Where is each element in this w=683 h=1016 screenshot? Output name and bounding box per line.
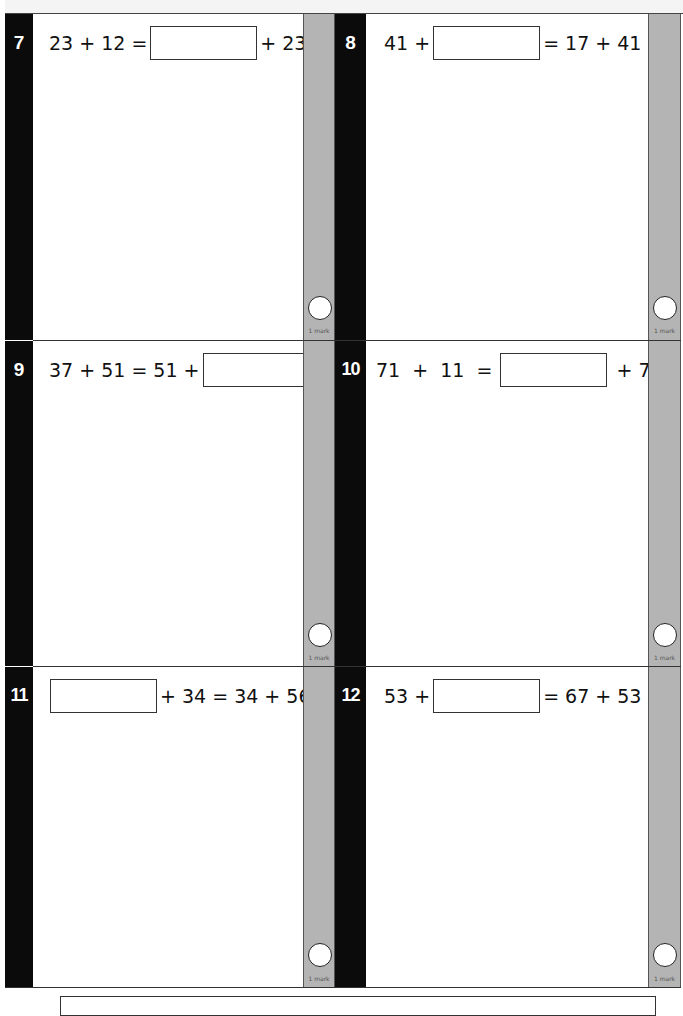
number-strip: 11 [5,667,33,987]
equation-left: 71 + 11 = [376,359,492,381]
question-grid: 7 23 + 12 = + 23 1 mark 8 41 + = 17 + 41 [5,14,681,988]
equation-left: 41 + [384,32,430,54]
question-number: 8 [335,32,366,54]
question-10: 10 71 + 11 = + 71 1 mark [335,341,681,666]
mark-circle[interactable] [308,623,332,647]
mark-strip: 1 mark [648,341,681,666]
answer-box[interactable] [150,26,257,60]
question-number: 9 [5,359,33,381]
working-area: 37 + 51 = 51 + [33,341,303,666]
number-strip: 10 [335,341,366,666]
page-top-edge [5,0,683,14]
equation: 23 + 12 = + 23 [49,26,306,60]
question-number: 7 [5,32,33,54]
answer-box[interactable] [433,26,540,60]
number-strip: 9 [5,341,33,666]
mark-label: 1 mark [304,327,334,334]
equation: 71 + 11 = + 71 [376,353,663,387]
number-strip: 8 [335,14,366,340]
answer-box[interactable] [433,679,540,713]
mark-circle[interactable] [653,296,677,320]
mark-label: 1 mark [649,327,680,334]
mark-circle[interactable] [308,943,332,967]
number-strip: 12 [335,667,366,987]
working-area: + 34 = 34 + 56 [33,667,303,987]
working-area: 41 + = 17 + 41 [366,14,648,340]
equation-right: = 17 + 41 [543,32,641,54]
question-9: 9 37 + 51 = 51 + 1 mark [5,341,335,666]
mark-circle[interactable] [653,943,677,967]
mark-label: 1 mark [304,654,334,661]
answer-box[interactable] [50,679,157,713]
mark-label: 1 mark [649,654,680,661]
mark-strip: 1 mark [303,341,335,666]
footer-box [60,996,656,1016]
equation: 53 + = 67 + 53 [384,679,641,713]
question-number: 11 [5,685,33,706]
question-7: 7 23 + 12 = + 23 1 mark [5,14,335,340]
question-11: 11 + 34 = 34 + 56 1 mark [5,667,335,987]
mark-label: 1 mark [649,975,680,982]
mark-circle[interactable] [653,623,677,647]
mark-strip: 1 mark [648,667,681,987]
question-12: 12 53 + = 67 + 53 1 mark [335,667,681,987]
equation: 37 + 51 = 51 + [49,353,313,387]
equation-right: + 34 = 34 + 56 [160,685,311,707]
equation: + 34 = 34 + 56 [50,679,311,713]
mark-circle[interactable] [308,296,332,320]
equation-left: 53 + [384,685,430,707]
number-strip: 7 [5,14,33,340]
equation-right: = 67 + 53 [543,685,641,707]
working-area: 23 + 12 = + 23 [33,14,303,340]
equation-right: + 23 [260,32,306,54]
mark-strip: 1 mark [303,667,335,987]
mark-strip: 1 mark [303,14,335,340]
question-number: 12 [335,685,366,706]
equation-left: 23 + 12 = [49,32,147,54]
answer-box[interactable] [203,353,310,387]
equation: 41 + = 17 + 41 [384,26,641,60]
equation-left: 37 + 51 = 51 + [49,359,200,381]
question-number: 10 [335,359,366,380]
mark-label: 1 mark [304,975,334,982]
answer-box[interactable] [500,353,607,387]
working-area: 71 + 11 = + 71 [366,341,648,666]
question-8: 8 41 + = 17 + 41 1 mark [335,14,681,340]
mark-strip: 1 mark [648,14,681,340]
working-area: 53 + = 67 + 53 [366,667,648,987]
